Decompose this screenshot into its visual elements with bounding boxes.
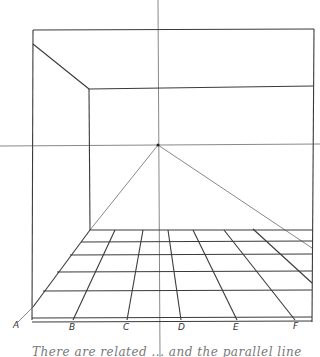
room-lines (32, 29, 314, 322)
floor-v-c (127, 230, 143, 320)
label-f: F (293, 321, 298, 331)
back-wall-left (89, 89, 90, 230)
diagonal-right-guide (158, 145, 312, 248)
outer-left (32, 30, 33, 320)
back-wall-top (89, 86, 313, 89)
outer-top (33, 29, 314, 30)
a-guide (18, 307, 33, 322)
floor-h3 (70, 254, 312, 255)
label-e: E (233, 322, 239, 332)
floor-v-f (224, 230, 295, 320)
floor-v-d (168, 230, 181, 320)
vanishing-point (157, 144, 160, 147)
vertical-center-line (158, 0, 160, 357)
label-a: A (13, 320, 19, 330)
guide-lines (0, 0, 320, 357)
floor-v-g (253, 229, 312, 283)
outer-right (312, 29, 314, 322)
perspective-sketch (0, 0, 320, 357)
diagonal-left-guide (90, 145, 158, 230)
floor-v-b (73, 230, 115, 320)
label-c: C (123, 322, 129, 332)
floor-v-e (193, 230, 237, 320)
floor-h2 (81, 241, 312, 242)
ceiling-left-edge (33, 44, 89, 89)
handwritten-caption: There are related ... and the parallel l… (32, 344, 302, 357)
label-d: D (178, 322, 185, 332)
label-b: B (69, 322, 75, 332)
horizon-line (0, 144, 320, 146)
